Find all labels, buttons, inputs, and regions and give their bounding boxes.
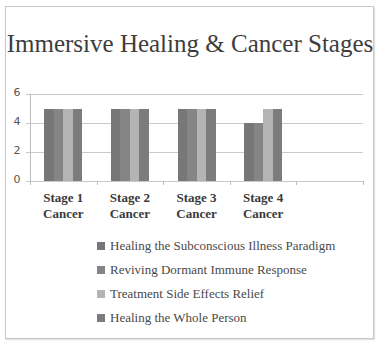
bar bbox=[139, 109, 149, 182]
bar bbox=[178, 109, 188, 182]
bar bbox=[206, 109, 216, 182]
bar bbox=[120, 109, 130, 182]
legend-swatch-icon bbox=[97, 266, 105, 274]
legend-item: Healing the Subconscious Illness Paradig… bbox=[97, 234, 335, 258]
legend-label: Healing the Whole Person bbox=[110, 310, 247, 326]
x-tick-label: Stage 4Cancer bbox=[230, 190, 296, 222]
legend-swatch-icon bbox=[97, 290, 105, 298]
x-tick-label-line: Stage 1 bbox=[30, 190, 96, 206]
bar bbox=[44, 109, 54, 182]
bar bbox=[187, 109, 197, 182]
x-tick bbox=[30, 181, 31, 185]
x-tick-label: Stage 3Cancer bbox=[164, 190, 230, 222]
legend-label: Treatment Side Effects Relief bbox=[110, 286, 264, 302]
x-tick-label: Stage 2Cancer bbox=[97, 190, 163, 222]
bar bbox=[54, 109, 64, 182]
x-tick bbox=[230, 181, 231, 185]
x-tick-label-line: Stage 2 bbox=[97, 190, 163, 206]
bar bbox=[130, 109, 140, 182]
x-tick-label-line: Cancer bbox=[30, 206, 96, 222]
legend: Healing the Subconscious Illness Paradig… bbox=[97, 234, 335, 330]
x-tick bbox=[163, 181, 164, 185]
bar bbox=[273, 109, 283, 182]
x-tick-label-line: Stage 3 bbox=[164, 190, 230, 206]
legend-label: Healing the Subconscious Illness Paradig… bbox=[110, 238, 335, 254]
bar bbox=[63, 109, 73, 182]
y-axis bbox=[30, 94, 31, 181]
y-tick-label: 4 bbox=[10, 115, 24, 128]
x-tick-label-line: Stage 4 bbox=[230, 190, 296, 206]
legend-item: Healing the Whole Person bbox=[97, 306, 335, 330]
y-tick-label: 0 bbox=[10, 173, 24, 186]
y-tick-label: 6 bbox=[10, 86, 24, 99]
x-tick-label-line: Cancer bbox=[164, 206, 230, 222]
bar bbox=[244, 123, 254, 181]
legend-swatch-icon bbox=[97, 242, 105, 250]
gridline bbox=[26, 94, 363, 95]
x-tick-label-line: Cancer bbox=[97, 206, 163, 222]
x-tick bbox=[296, 181, 297, 185]
bar bbox=[111, 109, 121, 182]
gridline bbox=[26, 181, 363, 182]
x-tick-label: Stage 1Cancer bbox=[30, 190, 96, 222]
legend-label: Reviving Dormant Immune Response bbox=[110, 262, 307, 278]
x-tick-label-line: Cancer bbox=[230, 206, 296, 222]
x-tick bbox=[97, 181, 98, 185]
legend-swatch-icon bbox=[97, 314, 105, 322]
bar bbox=[254, 123, 264, 181]
legend-item: Reviving Dormant Immune Response bbox=[97, 258, 335, 282]
legend-item: Treatment Side Effects Relief bbox=[97, 282, 335, 306]
x-tick bbox=[363, 181, 364, 185]
y-tick-label: 2 bbox=[10, 144, 24, 157]
bar bbox=[73, 109, 83, 182]
bar bbox=[263, 109, 273, 182]
bar bbox=[197, 109, 207, 182]
